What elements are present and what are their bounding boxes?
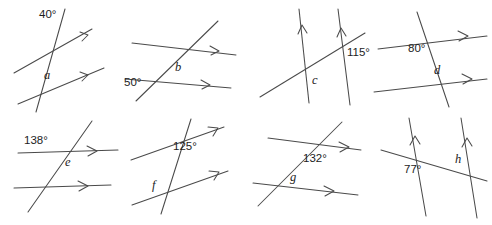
worksheet-canvas: 40° a 50° b 115° c [0,0,492,225]
arrow-right-icon [462,74,472,84]
transversal-line [381,150,487,181]
parallel-line-upper [18,150,118,153]
unknown-angle-label-h: h [455,153,461,166]
figure-g: 132° g [246,113,369,225]
unknown-angle-label-b: b [175,61,181,74]
angle-label-125: 125° [173,141,197,153]
figure-h-drawing [369,113,492,225]
angle-label-50: 50° [124,77,141,89]
figure-g-drawing [246,113,369,225]
unknown-angle-label-c: c [312,74,318,87]
transversal-line [36,9,65,112]
arrow-up-right-icon [80,32,88,41]
parallel-line-upper [378,36,487,49]
figure-a: 40° a [0,0,123,112]
figure-d: 80° d [369,0,492,112]
angle-label-40: 40° [39,9,56,21]
transversal-line [161,119,191,214]
arrow-up-right-icon [208,127,218,136]
unknown-angle-label-g: g [290,171,296,184]
figure-f-drawing [123,113,246,225]
parallel-line-lower [253,183,358,195]
parallel-line-upper [132,43,236,55]
figure-b-drawing [123,0,246,112]
angle-label-80: 80° [408,43,425,55]
figure-e: 138° e [0,113,123,225]
angle-label-77: 77° [404,164,421,176]
arrow-up-icon [462,138,472,147]
angle-label-132: 132° [303,153,327,165]
angle-label-138: 138° [24,135,48,147]
arrow-up-icon [410,136,420,145]
figure-e-drawing [0,113,123,225]
arrow-right-icon [201,80,210,89]
angle-label-115: 115° [347,47,370,59]
unknown-angle-label-e: e [65,156,71,169]
figure-d-drawing [369,0,492,112]
parallel-line-lower [132,171,228,205]
figure-f: 125° f [123,113,246,225]
arrow-up-icon [298,25,307,34]
unknown-angle-label-f: f [152,179,155,192]
unknown-angle-label-d: d [434,64,440,77]
unknown-angle-label-a: a [44,69,50,82]
parallel-line-lower [18,68,104,104]
parallel-line-lower [14,185,111,188]
figure-a-drawing [0,0,123,112]
figure-h: 77° h [369,113,492,225]
arrow-right-icon [210,46,219,55]
figure-b: 50° b [123,0,246,112]
transversal-line [417,12,449,107]
parallel-line-left [299,9,309,103]
figure-c: 115° c [246,0,369,112]
parallel-line-right [461,118,477,218]
parallel-line-lower [374,79,487,92]
transversal-line [260,33,365,97]
